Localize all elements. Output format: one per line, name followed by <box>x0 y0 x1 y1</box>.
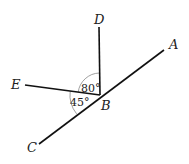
point-label-B: B <box>100 98 111 113</box>
point-label-C: C <box>27 140 37 155</box>
point-label-D: D <box>93 12 105 27</box>
line-AC <box>39 50 164 144</box>
angle-label-45: 45° <box>70 96 90 109</box>
angle-label-80: 80° <box>81 82 101 95</box>
point-label-A: A <box>168 37 178 52</box>
point-label-E: E <box>10 77 21 92</box>
geometry-diagram: D A E B C 80° 45° <box>0 0 189 164</box>
